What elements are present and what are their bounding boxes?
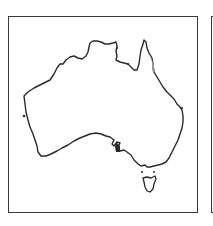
island-marker [23, 115, 26, 118]
island-marker [141, 171, 143, 173]
island-marker [181, 107, 183, 109]
island-marker [116, 47, 118, 49]
island-marker [153, 171, 155, 173]
island-marker [127, 63, 129, 65]
tasmania-outline [143, 176, 156, 192]
australia-map [0, 0, 213, 226]
australia-mainland-outline [24, 40, 183, 167]
